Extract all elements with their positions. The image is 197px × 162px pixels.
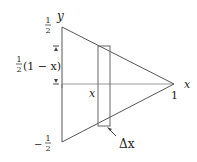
svg-text:1: 1	[45, 134, 50, 143]
svg-text:1: 1	[16, 55, 21, 64]
svg-text:(1 − x): (1 − x)	[23, 60, 61, 73]
svg-text:2: 2	[45, 26, 50, 35]
top-value-label: 1 2	[45, 16, 51, 35]
slab-rectangle	[98, 46, 110, 126]
height-expression-label: 1 2 (1 − x)	[16, 55, 61, 74]
apex-value-label: 1	[171, 89, 178, 102]
bottom-value-label: − 1 2	[34, 134, 51, 153]
svg-text:−: −	[34, 139, 42, 150]
x-axis-label: x	[184, 78, 191, 91]
svg-text:1: 1	[45, 16, 50, 25]
triangle-diagram: y 1 2 1 2 (1 − x) − 1 2 x x 1 Δx	[0, 0, 197, 162]
slab-width-arrow-icon	[107, 127, 116, 136]
y-axis-label: y	[56, 9, 64, 23]
svg-text:2: 2	[16, 65, 21, 74]
svg-text:2: 2	[45, 144, 50, 153]
slab-width-label: Δx	[119, 137, 135, 151]
slab-position-label: x	[89, 87, 96, 100]
